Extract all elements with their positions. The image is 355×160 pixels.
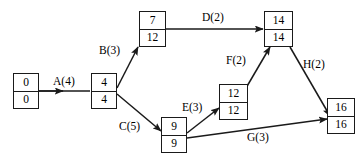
node-n2-latest: 4 [92,92,116,109]
edge-label-G: G(3) [247,132,269,144]
edge-label-B: B(3) [99,45,120,57]
node-n4-earliest: 14 [265,12,292,30]
node-n3: 7 12 [139,11,166,47]
edge-label-C: C(5) [119,121,140,133]
edge-label-E: E(3) [182,102,202,114]
node-n1-earliest: 0 [14,74,38,92]
node-n4: 14 14 [264,11,293,47]
edge-label-D: D(2) [202,12,224,24]
edge-label-H: H(2) [303,59,325,71]
node-n7-earliest: 16 [328,99,354,117]
edge-F-arrow [246,47,270,88]
node-n6-latest: 9 [162,136,186,153]
node-n3-earliest: 7 [140,12,165,30]
node-n6: 9 9 [161,117,187,153]
edge-B-arrow [117,47,138,88]
node-n7-latest: 16 [328,117,354,134]
node-n2-earliest: 4 [92,74,116,92]
edge-label-F: F(2) [226,55,246,67]
node-n3-latest: 12 [140,30,165,47]
node-n7: 16 16 [327,98,355,134]
node-n5-latest: 12 [220,103,247,120]
edge-label-A: A(4) [53,76,75,88]
node-n5: 12 12 [219,84,248,120]
node-n5-earliest: 12 [220,85,247,103]
node-n1-latest: 0 [14,92,38,109]
node-n6-earliest: 9 [162,118,186,136]
node-n2: 4 4 [91,73,117,109]
node-n4-latest: 14 [265,30,292,47]
node-n1: 0 0 [13,73,39,109]
